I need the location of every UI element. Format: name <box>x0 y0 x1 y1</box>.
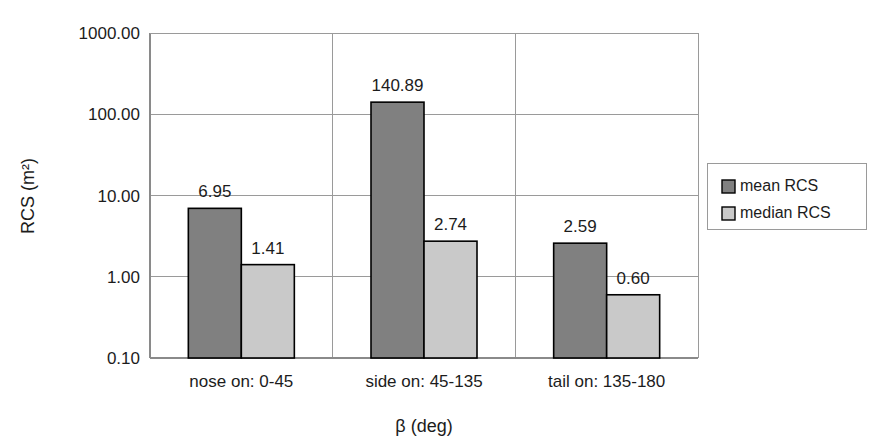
y-tick-label: 0.10 <box>107 349 140 368</box>
bar <box>188 208 241 358</box>
bar-value-label: 140.89 <box>372 76 424 95</box>
chart-figure: 0.101.0010.00100.001000.00 6.951.41140.8… <box>0 0 893 446</box>
y-tick-label: 10.00 <box>97 187 140 206</box>
legend-label-mean-rcs: mean RCS <box>740 177 818 194</box>
y-axis-title: RCS (m²) <box>18 158 38 234</box>
legend-swatch-mean-rcs <box>722 180 735 193</box>
y-axis-tick-labels: 0.101.0010.00100.001000.00 <box>79 24 140 368</box>
bar <box>607 295 660 358</box>
bar <box>424 241 477 358</box>
bar-value-label: 6.95 <box>198 182 231 201</box>
x-category-label: nose on: 0-45 <box>189 372 293 391</box>
x-axis-category-labels: nose on: 0-45side on: 45-135tail on: 135… <box>189 372 665 391</box>
bar-value-label: 2.59 <box>564 217 597 236</box>
legend: mean RCS median RCS <box>707 163 866 229</box>
x-axis-title: β (deg) <box>395 416 452 436</box>
y-tick-label: 1.00 <box>107 268 140 287</box>
bar-value-label: 1.41 <box>251 239 284 258</box>
legend-swatch-median-rcs <box>722 207 735 220</box>
y-tick-label: 1000.00 <box>79 24 140 43</box>
bar-value-label: 0.60 <box>617 269 650 288</box>
bar-value-label: 2.74 <box>434 215 467 234</box>
x-category-label: tail on: 135-180 <box>548 372 665 391</box>
bar <box>371 102 424 358</box>
bar <box>241 265 294 358</box>
bar <box>554 243 607 358</box>
x-category-label: side on: 45-135 <box>365 372 482 391</box>
y-tick-label: 100.00 <box>88 105 140 124</box>
legend-label-median-rcs: median RCS <box>740 204 831 221</box>
chart-canvas: 0.101.0010.00100.001000.00 6.951.41140.8… <box>0 0 893 446</box>
